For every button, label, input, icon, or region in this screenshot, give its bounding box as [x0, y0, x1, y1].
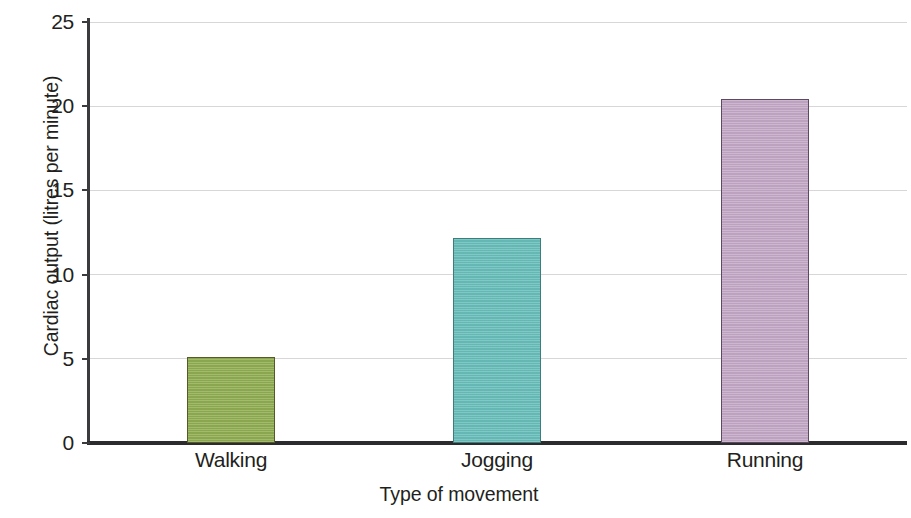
- bar-chart-figure: Cardiac output (litres per minute) Type …: [0, 0, 911, 518]
- y-axis-tick: [82, 105, 90, 107]
- y-axis-tick-label: 10: [14, 264, 74, 285]
- y-axis-tick: [82, 274, 90, 276]
- y-axis-title: Cardiac output (litres per minute): [34, 0, 68, 436]
- y-axis-tick-label: 5: [14, 348, 74, 369]
- y-axis-tick: [82, 358, 90, 360]
- x-axis-title: Type of movement: [89, 483, 829, 506]
- y-axis-tick: [82, 189, 90, 191]
- y-axis-tick-label: 20: [14, 95, 74, 116]
- bar-running: [721, 99, 809, 443]
- bar-jogging: [453, 238, 541, 443]
- x-axis-category-label: Jogging: [407, 449, 587, 471]
- gridline: [89, 22, 907, 23]
- bar-walking: [187, 357, 275, 443]
- y-axis-line: [87, 18, 90, 445]
- y-axis-tick-label: 25: [14, 11, 74, 32]
- y-axis-tick: [82, 442, 90, 444]
- x-axis-category-label: Walking: [141, 449, 321, 471]
- y-axis-tick: [82, 21, 90, 23]
- x-axis-category-label: Running: [675, 449, 855, 471]
- y-axis-tick-label: 0: [14, 432, 74, 453]
- y-axis-tick-label: 15: [14, 179, 74, 200]
